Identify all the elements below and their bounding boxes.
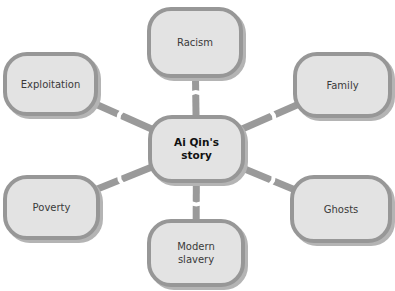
- mind-map-diagram: Ai Qin's story Racism Family Ghosts Mode…: [0, 0, 395, 291]
- node-poverty: Poverty: [3, 175, 100, 240]
- node-label: Exploitation: [21, 78, 80, 91]
- node-family: Family: [293, 52, 392, 118]
- node-modern-slavery: Modern slavery: [147, 219, 245, 287]
- node-label: Ghosts: [324, 203, 359, 216]
- node-label: Modern slavery: [177, 240, 215, 266]
- node-racism: Racism: [147, 7, 243, 78]
- node-ghosts: Ghosts: [290, 175, 392, 243]
- center-node: Ai Qin's story: [148, 115, 245, 183]
- center-node-label: Ai Qin's story: [174, 136, 219, 162]
- node-label: Racism: [177, 36, 213, 49]
- node-exploitation: Exploitation: [3, 52, 98, 116]
- node-label: Poverty: [33, 201, 71, 214]
- node-label: Family: [326, 79, 358, 92]
